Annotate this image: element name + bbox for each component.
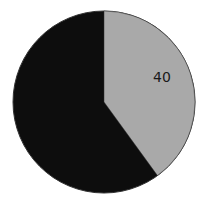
slice-label-60: 60 [48, 125, 66, 141]
slice-label-40: 40 [153, 69, 171, 85]
pie-chart: 40 60 [0, 0, 206, 204]
